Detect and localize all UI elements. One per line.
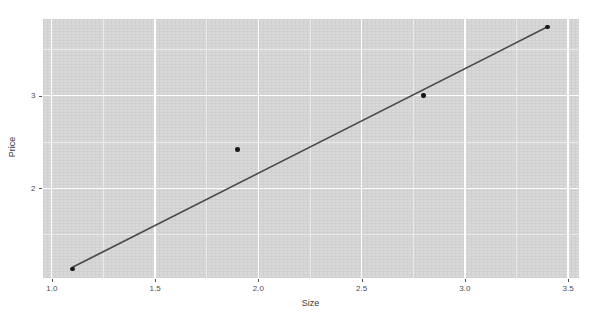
x-axis-tick-mark — [52, 279, 53, 282]
x-axis-title: Size — [271, 298, 351, 308]
x-axis-tick-mark — [362, 279, 363, 282]
fitted-regression-line — [0, 0, 594, 324]
x-axis-tick-label: 3.0 — [445, 284, 485, 293]
x-axis-tick-label: 2.5 — [342, 284, 382, 293]
data-point — [70, 267, 74, 271]
x-axis-tick-mark — [465, 279, 466, 282]
data-point — [235, 147, 239, 151]
y-axis-title: Price — [7, 107, 17, 187]
x-axis-tick-label: 3.5 — [548, 284, 588, 293]
y-axis-tick-mark — [39, 96, 42, 97]
y-axis-tick-mark — [39, 188, 42, 189]
data-point — [545, 25, 549, 29]
x-axis-tick-label: 2.0 — [238, 284, 278, 293]
x-axis-tick-mark — [155, 279, 156, 282]
x-axis-tick-mark — [568, 279, 569, 282]
x-axis-tick-label: 1.0 — [32, 284, 72, 293]
x-axis-tick-mark — [258, 279, 259, 282]
x-axis-tick-label: 1.5 — [135, 284, 175, 293]
data-point — [421, 93, 425, 97]
y-axis-tick-label: 3 — [10, 91, 36, 100]
scatter-plot-figure: 231.01.52.02.53.03.5 Size Price — [0, 0, 594, 324]
